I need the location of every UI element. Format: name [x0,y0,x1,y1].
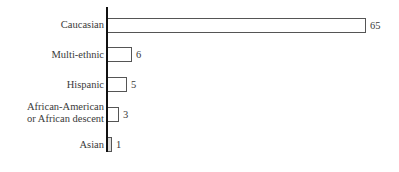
category-label-asian: Asian [80,139,105,151]
category-label-hispanic: Hispanic [67,79,104,91]
bar-african-american [108,107,119,122]
bar-caucasian [108,18,366,33]
value-label-caucasian: 65 [370,20,381,32]
value-label-hispanic: 5 [131,79,136,91]
category-label-line-1: African-American [27,101,104,113]
value-label-african-american: 3 [123,109,128,121]
bar-hispanic [108,77,127,92]
value-label-asian: 1 [116,139,121,151]
category-label-line-2: or African descent [27,113,104,125]
value-label-multi-ethnic: 6 [136,49,141,61]
category-label-caucasian: Caucasian [61,19,104,31]
bar-multi-ethnic [108,47,132,62]
category-label-african-american: African-American or African descent [27,101,104,125]
bar-asian [108,137,112,152]
category-label-multi-ethnic: Multi-ethnic [52,49,105,61]
